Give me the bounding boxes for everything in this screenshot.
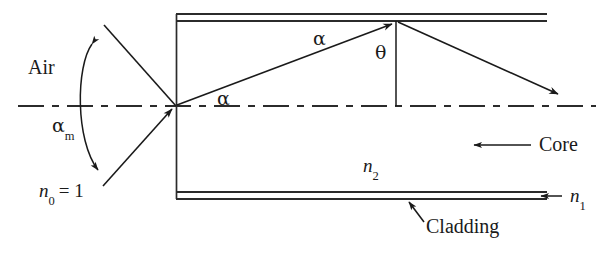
label-n0: n0= 1 xyxy=(39,181,84,204)
label-alpha-max: αm xyxy=(52,116,75,139)
label-alpha-core-upper: α xyxy=(313,29,326,48)
label-n1: n1 xyxy=(570,186,586,209)
acceptance-cone-upper-ray xyxy=(104,25,176,106)
alpha-max-subscript: m xyxy=(65,129,75,143)
optical-fiber-diagram: Air αm n0= 1 α α θ n2 Core n1 Cladding xyxy=(0,0,609,254)
diagram-canvas xyxy=(0,0,609,254)
acceptance-angle-arc xyxy=(80,44,98,170)
label-cladding: Cladding xyxy=(426,216,499,236)
label-air: Air xyxy=(28,57,55,77)
refracted-ray-to-wall xyxy=(177,24,392,105)
n1-symbol: n xyxy=(570,185,580,206)
n0-symbol: n xyxy=(39,180,49,201)
n0-subscript: 0 xyxy=(49,194,55,208)
n2-symbol: n xyxy=(363,155,373,176)
n0-value: = 1 xyxy=(55,180,84,201)
label-alpha-core-entry: α xyxy=(217,89,230,108)
fiber-top-cladding-boundary xyxy=(176,14,547,21)
label-theta: θ xyxy=(375,43,386,62)
label-n2: n2 xyxy=(363,156,379,179)
reflected-ray-outgoing xyxy=(398,22,558,94)
alpha-max-symbol: α xyxy=(52,114,65,136)
incident-ray-lower xyxy=(103,109,172,186)
label-core: Core xyxy=(539,134,578,154)
n2-subscript: 2 xyxy=(373,169,379,183)
cladding-callout-arrow xyxy=(409,202,424,222)
fiber-bottom-cladding-boundary xyxy=(176,192,547,199)
n1-subscript: 1 xyxy=(580,199,586,213)
